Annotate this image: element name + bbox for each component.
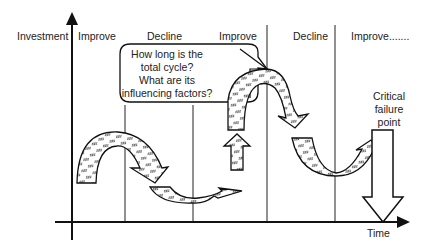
y-axis-arrowhead-icon: [66, 12, 78, 25]
arc-arrow-2: [228, 69, 308, 130]
callout-line-2: total cycle?: [121, 61, 213, 74]
critical-failure-label: Critical failure point: [366, 90, 412, 129]
phase-label-2: Decline: [147, 30, 182, 42]
callout-line-3: What are its: [121, 74, 213, 87]
phase-label-3: Improve: [219, 30, 257, 42]
y-axis-label: Investment: [17, 30, 68, 42]
critical-line-2: failure: [366, 103, 412, 116]
phase-label-1: Improve: [78, 30, 116, 42]
phase-label-4: Decline: [293, 30, 328, 42]
trough-arrow: [150, 187, 242, 203]
up-arrow: [224, 134, 250, 170]
arc-arrow-1: [77, 132, 168, 183]
critical-line-1: Critical: [366, 90, 412, 103]
callout-line-4: influencing factors?: [121, 87, 213, 100]
x-axis-arrowhead-icon: [397, 216, 410, 228]
phase-label-5: Improve.......: [351, 30, 409, 42]
callout-line-1: How long is the: [121, 48, 213, 61]
callout-text: How long is the total cycle? What are it…: [121, 48, 213, 100]
critical-line-3: point: [366, 116, 412, 129]
x-axis-label: Time: [367, 227, 390, 239]
